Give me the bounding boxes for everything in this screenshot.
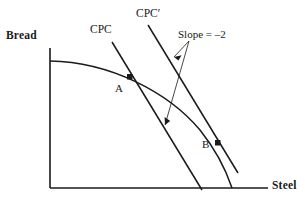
- point-b-marker: [215, 140, 221, 146]
- ppf-curve: [50, 61, 232, 188]
- slope-leader-arrows: [165, 41, 189, 125]
- cpc-line: [112, 42, 202, 190]
- cpc-prime-line: [148, 25, 238, 173]
- point-a-marker: [127, 74, 133, 80]
- cpc-label: CPC: [90, 24, 112, 36]
- y-axis-label: Bread: [6, 30, 37, 42]
- ppf-diagram: Bread Steel CPC CPC′ Slope = –2 A B: [0, 0, 305, 200]
- diagram-canvas: [0, 0, 305, 200]
- point-b-label: B: [202, 139, 209, 150]
- slope-annotation-label: Slope = –2: [178, 29, 226, 40]
- slope-arrowhead-lower: [165, 117, 171, 125]
- x-axis-label: Steel: [272, 180, 297, 192]
- point-a-label: A: [115, 83, 123, 94]
- cpc-prime-label: CPC′: [136, 8, 160, 20]
